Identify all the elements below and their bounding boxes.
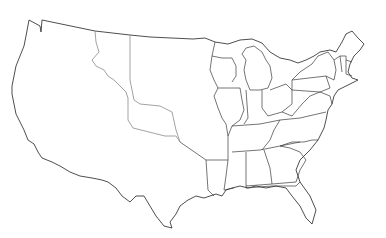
territory-boundary-central [130,35,180,142]
illinois-border [218,88,244,136]
alabama-state-border [246,150,272,186]
louisiana-border [206,160,234,190]
wisconsin-border [212,56,236,82]
ohio-border [262,84,292,116]
territory-boundary-west [92,31,180,142]
tennessee-nc-border [262,120,280,150]
indiana-border [244,90,248,124]
florida-border [246,182,300,188]
georgia-border [272,146,306,184]
kentucky-tennessee-border [232,112,326,126]
mississippi-river [210,42,228,160]
national-outline [12,20,364,228]
michigan-outline [242,46,272,90]
tennessee-south-border [232,142,300,152]
us-outline-map [0,0,386,238]
texas-east-border [180,142,214,196]
pennsylvania-border [292,76,330,92]
